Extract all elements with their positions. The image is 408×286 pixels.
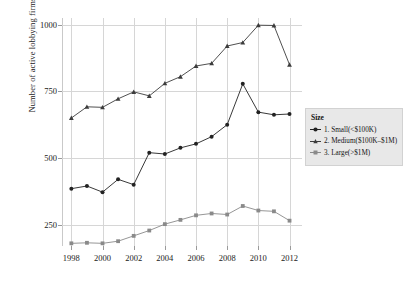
x-tick-label: 2008 bbox=[219, 253, 236, 263]
y-tick-label: 500 bbox=[44, 153, 57, 163]
data-point-marker bbox=[241, 82, 245, 86]
data-point-marker bbox=[225, 213, 229, 217]
x-tick-mark bbox=[71, 246, 72, 250]
x-tick-mark bbox=[196, 246, 197, 250]
x-tick-mark bbox=[103, 246, 104, 250]
legend-item-small[interactable]: 1. Small(<$100K) bbox=[310, 125, 398, 134]
data-point-marker bbox=[116, 96, 121, 100]
y-axis-title: Number of active lobbying firms bbox=[27, 0, 37, 145]
legend-item-label: 2. Medium($100K–$1M) bbox=[324, 137, 397, 145]
data-point-marker bbox=[69, 187, 73, 191]
x-tick-label: 2004 bbox=[156, 253, 173, 263]
data-point-marker bbox=[69, 241, 73, 245]
x-tick-mark bbox=[165, 246, 166, 250]
series-triangle bbox=[69, 23, 292, 120]
data-point-marker bbox=[163, 222, 167, 226]
x-tick-mark bbox=[290, 246, 291, 250]
legend-title: Size bbox=[311, 113, 398, 122]
data-point-marker bbox=[85, 241, 89, 245]
data-point-marker bbox=[194, 213, 198, 217]
legend-item-large[interactable]: 3. Large(>$1M) bbox=[310, 148, 398, 157]
y-tick-label: 750 bbox=[44, 86, 57, 96]
series-square bbox=[69, 204, 291, 245]
x-tick-label: 2012 bbox=[281, 253, 298, 263]
x-tick-label: 2002 bbox=[125, 253, 142, 263]
x-tick-label: 2010 bbox=[250, 253, 267, 263]
data-point-marker bbox=[116, 177, 120, 181]
x-tick-label: 2006 bbox=[188, 253, 205, 263]
data-point-marker bbox=[132, 183, 136, 187]
series-line bbox=[71, 84, 289, 192]
data-point-marker bbox=[116, 239, 120, 243]
data-point-marker bbox=[179, 218, 183, 222]
data-point-marker bbox=[178, 146, 182, 150]
legend-item-medium[interactable]: 2. Medium($100K–$1M) bbox=[310, 137, 398, 146]
triangle-marker-icon bbox=[310, 137, 321, 146]
circle-marker-icon bbox=[310, 125, 321, 134]
data-point-marker bbox=[241, 204, 245, 208]
legend: Size 1. Small(<$100K) 2. Medium($100K–$1… bbox=[305, 108, 403, 166]
x-tick-label: 2000 bbox=[94, 253, 111, 263]
data-point-marker bbox=[288, 219, 292, 223]
series-line bbox=[71, 25, 289, 118]
x-tick-mark bbox=[134, 246, 135, 250]
series-circle bbox=[69, 82, 291, 194]
data-point-marker bbox=[287, 62, 292, 66]
legend-item-label: 3. Large(>$1M) bbox=[324, 149, 370, 157]
data-point-marker bbox=[163, 152, 167, 156]
data-point-marker bbox=[225, 123, 229, 127]
data-point-marker bbox=[147, 229, 151, 233]
y-tick-label: 1000 bbox=[40, 20, 57, 30]
data-point-marker bbox=[101, 241, 105, 245]
data-point-marker bbox=[272, 113, 276, 117]
x-tick-label: 1998 bbox=[63, 253, 80, 263]
data-point-marker bbox=[194, 142, 198, 146]
plot-area: 2505007501000 19982000200220042006200820… bbox=[62, 18, 302, 246]
data-point-marker bbox=[85, 184, 89, 188]
data-point-marker bbox=[132, 234, 136, 238]
series-layer bbox=[62, 18, 302, 246]
data-point-marker bbox=[256, 110, 260, 114]
data-point-marker bbox=[178, 74, 183, 78]
legend-item-label: 1. Small(<$100K) bbox=[324, 126, 376, 134]
x-tick-mark bbox=[258, 246, 259, 250]
x-tick-mark bbox=[227, 246, 228, 250]
data-point-marker bbox=[210, 212, 214, 216]
data-point-marker bbox=[147, 151, 151, 155]
data-point-marker bbox=[256, 209, 260, 213]
data-point-marker bbox=[210, 135, 214, 139]
data-point-marker bbox=[162, 81, 167, 85]
data-point-marker bbox=[101, 190, 105, 194]
lobbying-firms-line-chart: Number of active lobbying firms 25050075… bbox=[0, 0, 408, 286]
data-point-marker bbox=[131, 89, 136, 93]
data-point-marker bbox=[288, 112, 292, 116]
square-marker-icon bbox=[310, 148, 321, 157]
y-tick-label: 250 bbox=[44, 220, 57, 230]
data-point-marker bbox=[272, 209, 276, 213]
